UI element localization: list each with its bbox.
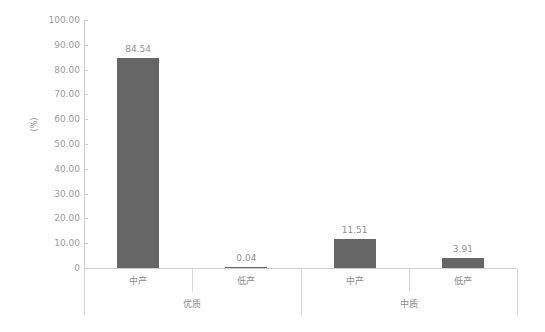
group-separator [301, 269, 302, 315]
y-axis-tick-label: 40.00 [30, 163, 80, 175]
bar [225, 267, 267, 268]
bar [117, 58, 159, 268]
y-axis-tick-label: 70.00 [30, 88, 80, 100]
y-axis-tick-label: 50.00 [30, 138, 80, 150]
y-axis-tick-label: 0 [30, 262, 80, 274]
category-label: 中产 [108, 274, 168, 287]
y-axis-tick-label: 10.00 [30, 237, 80, 249]
bar [334, 239, 376, 268]
category-separator [192, 269, 193, 292]
category-axis-right-edge [517, 269, 518, 315]
category-label: 低产 [216, 274, 276, 287]
bar-chart: (%) 100.0090.0080.0070.0060.0050.0040.00… [0, 0, 545, 332]
y-axis-tick-label: 30.00 [30, 188, 80, 200]
category-label: 低产 [433, 274, 493, 287]
bar [442, 258, 484, 268]
bar-value-label: 84.54 [108, 44, 168, 54]
bar-value-label: 11.51 [325, 225, 385, 235]
bar-value-label: 3.91 [433, 244, 493, 254]
category-label: 中产 [325, 274, 385, 287]
bar-value-label: 0.04 [216, 253, 276, 263]
y-axis-tick-label: 100.00 [30, 14, 80, 26]
group-label: 中质 [369, 297, 449, 310]
bars-container [85, 20, 517, 268]
y-axis-tick-label: 20.00 [30, 212, 80, 224]
y-axis-tick-label: 80.00 [30, 64, 80, 76]
y-axis-tick-label: 60.00 [30, 113, 80, 125]
y-axis-tick-label: 90.00 [30, 39, 80, 51]
group-label: 优质 [152, 297, 232, 310]
category-axis-left-edge [84, 269, 85, 315]
category-separator [409, 269, 410, 292]
